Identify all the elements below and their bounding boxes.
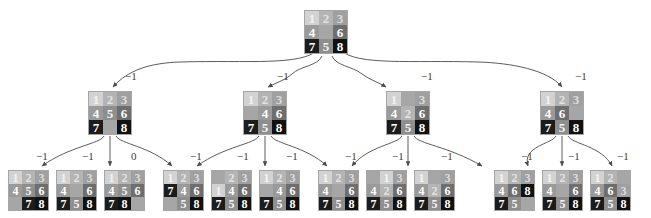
- puzzle-node[interactable]: 12346758: [259, 170, 300, 211]
- puzzle-tile-3: 3: [415, 92, 429, 106]
- puzzle-tile-3: 3: [117, 92, 131, 106]
- puzzle-tile-3: 3: [238, 171, 251, 184]
- puzzle-tile-4: 4: [177, 184, 190, 197]
- puzzle-tile-4: 4: [415, 184, 428, 197]
- puzzle-tile-6: 6: [555, 106, 569, 120]
- puzzle-tile-7: 7: [22, 197, 35, 210]
- puzzle-tile-8: 8: [238, 197, 251, 210]
- puzzle-tile-4: 4: [225, 184, 238, 197]
- puzzle-tile-8: 8: [118, 197, 131, 210]
- puzzle-tile-6: 6: [272, 106, 286, 120]
- puzzle-node[interactable]: 13426758: [366, 170, 407, 211]
- puzzle-tile-8: 8: [617, 197, 630, 210]
- edge-cost-label: −1: [286, 150, 298, 162]
- puzzle-node[interactable]: 12346758: [304, 10, 348, 54]
- puzzle-tile-1: 1: [244, 92, 258, 106]
- puzzle-blank-cell: [260, 184, 273, 197]
- puzzle-tile-1: 1: [89, 92, 103, 106]
- puzzle-tile-2: 2: [380, 184, 393, 197]
- puzzle-blank-cell: [131, 197, 144, 210]
- puzzle-tile-5: 5: [380, 197, 393, 210]
- puzzle-tile-8: 8: [441, 197, 454, 210]
- puzzle-tile-8: 8: [393, 197, 406, 210]
- puzzle-node[interactable]: 12463758: [590, 170, 631, 211]
- puzzle-tile-1: 1: [387, 92, 401, 106]
- puzzle-tile-4: 4: [541, 106, 555, 120]
- tree-edge: [332, 56, 386, 87]
- puzzle-node[interactable]: 12345678: [104, 170, 145, 211]
- puzzle-blank-cell: [164, 197, 177, 210]
- puzzle-tile-4: 4: [387, 106, 401, 120]
- puzzle-tile-2: 2: [103, 92, 117, 106]
- puzzle-node[interactable]: 12346875: [494, 170, 535, 211]
- puzzle-node[interactable]: 12346758: [243, 91, 287, 135]
- edge-cost-label: −1: [568, 150, 580, 162]
- puzzle-tile-4: 4: [367, 184, 380, 197]
- puzzle-node[interactable]: 13426758: [386, 91, 430, 135]
- puzzle-tile-7: 7: [495, 197, 508, 210]
- puzzle-tile-8: 8: [569, 197, 582, 210]
- puzzle-tile-2: 2: [555, 92, 569, 106]
- puzzle-node[interactable]: 12345678: [88, 91, 132, 135]
- tree-edge: [42, 136, 104, 166]
- puzzle-tile-8: 8: [333, 39, 347, 53]
- puzzle-tile-8: 8: [415, 120, 429, 134]
- puzzle-tile-1: 1: [260, 171, 273, 184]
- puzzle-tile-6: 6: [238, 184, 251, 197]
- puzzle-tile-8: 8: [286, 197, 299, 210]
- puzzle-tile-6: 6: [117, 106, 131, 120]
- puzzle-tile-8: 8: [35, 197, 48, 210]
- puzzle-tile-4: 4: [495, 184, 508, 197]
- puzzle-tile-2: 2: [258, 92, 272, 106]
- tree-edge: [271, 136, 327, 166]
- puzzle-tile-4: 4: [305, 25, 319, 39]
- puzzle-tile-5: 5: [22, 184, 35, 197]
- edge-cost-label: −1: [345, 150, 357, 162]
- puzzle-tile-6: 6: [415, 106, 429, 120]
- puzzle-tile-7: 7: [260, 197, 273, 210]
- puzzle-tile-4: 4: [89, 106, 103, 120]
- puzzle-tile-1: 1: [57, 171, 70, 184]
- puzzle-tile-5: 5: [103, 106, 117, 120]
- puzzle-tile-6: 6: [83, 184, 96, 197]
- puzzle-tile-5: 5: [401, 120, 415, 134]
- puzzle-node[interactable]: 12374658: [163, 170, 204, 211]
- puzzle-blank-cell: [401, 92, 415, 106]
- puzzle-tile-2: 2: [225, 171, 238, 184]
- puzzle-tile-6: 6: [286, 184, 299, 197]
- puzzle-node[interactable]: 12346758: [540, 91, 584, 135]
- puzzle-tile-4: 4: [258, 106, 272, 120]
- puzzle-tile-1: 1: [305, 11, 319, 25]
- puzzle-tile-7: 7: [387, 120, 401, 134]
- puzzle-blank-cell: [9, 197, 22, 210]
- puzzle-tile-3: 3: [83, 171, 96, 184]
- puzzle-tile-8: 8: [190, 197, 203, 210]
- edge-cost-label: −1: [421, 70, 433, 82]
- puzzle-tile-4: 4: [543, 184, 556, 197]
- puzzle-node[interactable]: 12346758: [56, 170, 97, 211]
- puzzle-tile-1: 1: [495, 171, 508, 184]
- puzzle-node[interactable]: 12346758: [318, 170, 359, 211]
- puzzle-tile-6: 6: [441, 184, 454, 197]
- puzzle-node[interactable]: 23146758: [211, 170, 252, 211]
- puzzle-node[interactable]: 12345678: [8, 170, 49, 211]
- puzzle-tile-4: 4: [57, 184, 70, 197]
- puzzle-blank-cell: [332, 184, 345, 197]
- edge-cost-label: −1: [36, 150, 48, 162]
- puzzle-tile-2: 2: [508, 171, 521, 184]
- puzzle-tile-1: 1: [591, 171, 604, 184]
- edge-cost-label: −1: [441, 150, 453, 162]
- puzzle-tile-8: 8: [117, 120, 131, 134]
- puzzle-tile-2: 2: [401, 106, 415, 120]
- puzzle-node[interactable]: 13426758: [414, 170, 455, 211]
- puzzle-tile-2: 2: [22, 171, 35, 184]
- puzzle-tile-7: 7: [367, 197, 380, 210]
- puzzle-blank-cell: [521, 197, 534, 210]
- puzzle-node[interactable]: 12346758: [542, 170, 583, 211]
- puzzle-blank-cell: [569, 106, 583, 120]
- edge-cost-label: −1: [237, 150, 249, 162]
- puzzle-blank-cell: [367, 171, 380, 184]
- puzzle-tile-3: 3: [617, 184, 630, 197]
- puzzle-tile-7: 7: [105, 197, 118, 210]
- puzzle-tile-5: 5: [70, 197, 83, 210]
